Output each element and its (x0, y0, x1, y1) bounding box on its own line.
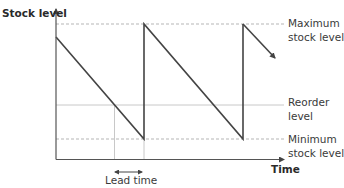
maximum-level-label-line1: Maximum (288, 17, 344, 31)
minimum-level-label-line1: Minimum (288, 133, 344, 147)
maximum-level-label: Maximum stock level (288, 17, 344, 44)
x-axis-label: Time (271, 163, 300, 177)
y-axis-label: Stock level (2, 7, 67, 21)
minimum-level-label-line2: stock level (288, 147, 344, 161)
reorder-level-label-line2: level (288, 110, 329, 124)
maximum-level-label-line2: stock level (288, 31, 344, 45)
reorder-level-label: Reorder level (288, 96, 329, 123)
stock-sawtooth-line (56, 24, 243, 139)
lead-time-label: Lead time (105, 174, 157, 188)
reorder-level-label-line1: Reorder (288, 96, 329, 110)
continuing-depletion-arrow (243, 24, 275, 58)
minimum-level-label: Minimum stock level (288, 133, 344, 160)
